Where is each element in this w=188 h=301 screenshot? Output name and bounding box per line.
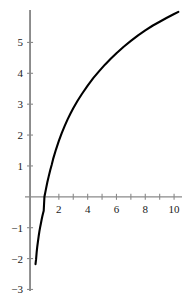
x-axis-tick-label: 2: [56, 203, 62, 215]
chart-canvas: 246810−3−2−112345: [0, 0, 188, 301]
y-axis-tick-label: −3: [11, 283, 23, 295]
y-axis-tick-label: 5: [18, 36, 24, 48]
curve-layer: [36, 12, 179, 264]
y-axis-tick-label: 4: [18, 67, 24, 79]
x-axis-tick-label: 10: [169, 203, 181, 215]
y-axis-tick-label: −1: [11, 222, 23, 234]
tick-layer: [27, 42, 174, 289]
x-axis-tick-label: 4: [85, 203, 91, 215]
log-function-plot: 246810−3−2−112345: [0, 0, 188, 301]
y-axis-tick-label: 1: [18, 160, 24, 172]
x-axis-tick-label: 8: [143, 203, 149, 215]
y-axis-tick-label: 2: [18, 129, 24, 141]
data-curve: [36, 12, 179, 264]
y-axis-tick-label: 3: [18, 98, 24, 110]
axis-layer: [25, 10, 182, 291]
y-axis-tick-label: −2: [11, 253, 23, 265]
x-axis-tick-label: 6: [114, 203, 120, 215]
